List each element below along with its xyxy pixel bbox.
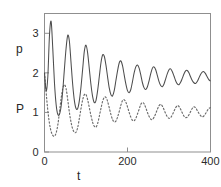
y-tick-label: 0: [33, 147, 39, 158]
x-tick-label: 200: [118, 156, 136, 167]
x-axis-label: t: [77, 170, 80, 182]
curve-p-solid: [45, 21, 211, 116]
y-tick-label: 3: [33, 28, 39, 39]
curve-P-dotted: [45, 73, 211, 136]
frame-rect: [45, 14, 211, 153]
y-tick-label: 1: [33, 107, 39, 118]
plot-figure: p P t 01230200400: [0, 0, 221, 187]
curve-label-p: p: [16, 43, 23, 55]
plot-frame: [45, 14, 211, 153]
data-curves: [45, 21, 211, 136]
x-tick-marks: [45, 148, 211, 153]
curve-label-P-upper: P: [16, 103, 24, 115]
y-tick-label: 2: [33, 68, 39, 79]
x-tick-label: 0: [41, 156, 47, 167]
x-tick-label: 400: [201, 156, 219, 167]
